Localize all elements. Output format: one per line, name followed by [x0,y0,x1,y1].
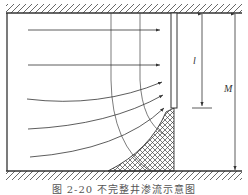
partial-well-seepage-diagram: l M [0,0,248,195]
flow-lines [27,30,164,157]
figure-caption: 图 2-20 不完整井渗流示意图 [0,181,248,195]
well-screen [171,13,177,108]
cross-hatched-zone [108,108,174,171]
label-l: l [193,55,196,66]
top-boundary [6,4,242,13]
bottom-boundary [6,171,242,180]
equipotential-line-2 [140,13,165,135]
label-m: M [223,83,233,94]
